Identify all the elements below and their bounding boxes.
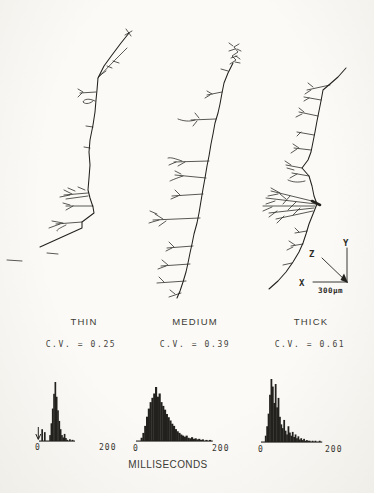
fiber-tracings: Y Z X 300µm <box>0 0 374 312</box>
hist-baseline <box>261 442 322 443</box>
axis-key: Y Z X 300µm <box>299 238 349 295</box>
thick-xtick-0: 0 <box>258 445 264 454</box>
medium-xtick-0: 0 <box>133 444 139 453</box>
figure-page: Y Z X 300µm THIN MEDIUM THICK C.V. = 0.2… <box>0 0 374 493</box>
hist-baseline <box>39 441 75 442</box>
z-axis-label: Z <box>309 249 315 259</box>
column-label-medium: MEDIUM <box>150 316 240 327</box>
stimulus-arrow <box>36 427 41 440</box>
histogram-medium <box>126 368 238 446</box>
thin-xtick-0: 0 <box>35 443 41 452</box>
x-axis-label: X <box>299 278 305 288</box>
x-axis-title: MILLISECONDS <box>103 459 233 470</box>
column-label-thick: THICK <box>266 316 356 327</box>
scale-bar-label: 300µm <box>318 286 343 295</box>
column-label-thin: THIN <box>39 316 129 327</box>
hist-bar <box>44 432 46 441</box>
histogram-thin <box>26 368 138 446</box>
thick-fiber-tracing <box>263 68 346 289</box>
medium-fiber-tracing <box>149 43 241 298</box>
thin-fiber-tracing <box>7 29 132 261</box>
cv-value-thin: C.V. = 0.25 <box>19 340 143 349</box>
cv-value-thick: C.V. = 0.61 <box>248 340 372 349</box>
y-axis-label: Y <box>343 238 349 248</box>
cv-value-medium: C.V. = 0.39 <box>133 340 257 349</box>
thin-xtick-200: 200 <box>99 443 116 452</box>
histogram-thick <box>250 368 350 446</box>
medium-xtick-200: 200 <box>212 444 229 453</box>
hist-baseline <box>136 441 213 442</box>
hist-bar <box>41 429 43 441</box>
thick-xtick-200: 200 <box>325 445 342 454</box>
